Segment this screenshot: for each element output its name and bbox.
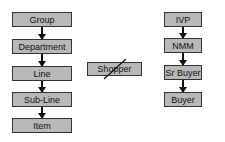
node-sr-buyer: Sr Buyer: [164, 65, 202, 80]
node-buyer: Buyer: [164, 92, 202, 107]
node-line: Line: [12, 66, 72, 81]
arrow-down-icon: [41, 54, 43, 66]
node-label: Item: [33, 121, 51, 131]
arrow-down-icon: [182, 27, 184, 38]
node-label: Line: [33, 69, 50, 79]
arrow-down-icon: [182, 80, 184, 92]
node-item: Item: [12, 118, 72, 133]
node-label: NMM: [172, 41, 194, 51]
arrow-down-icon: [41, 107, 43, 118]
arrow-down-icon: [182, 53, 184, 65]
node-label: Shopper: [97, 64, 131, 74]
node-nmm: NMM: [164, 38, 202, 53]
arrow-down-icon: [41, 27, 43, 39]
node-label: Group: [29, 15, 54, 25]
node-label: Sub-Line: [24, 95, 60, 105]
node-ivp: IVP: [164, 12, 202, 27]
arrow-down-icon: [41, 81, 43, 92]
node-label: Sr Buyer: [165, 68, 200, 78]
node-label: Department: [18, 42, 65, 52]
node-label: Buyer: [171, 95, 195, 105]
node-shopper: Shopper: [87, 62, 142, 76]
node-label: IVP: [176, 15, 191, 25]
node-sub-line: Sub-Line: [12, 92, 72, 107]
node-group: Group: [12, 12, 72, 27]
node-department: Department: [12, 39, 72, 54]
